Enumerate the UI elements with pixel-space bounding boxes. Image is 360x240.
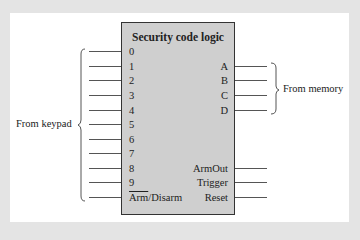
input-3: 3 [129, 90, 134, 102]
output-trigger: Trigger [197, 177, 228, 189]
input-5: 5 [129, 119, 134, 131]
input-4: 4 [129, 105, 134, 117]
block-title: Security code logic [122, 31, 234, 43]
input-1: 1 [129, 61, 134, 73]
input-7: 7 [129, 148, 134, 160]
output-reset: Reset [205, 192, 228, 204]
security-code-logic-block: Security code logic 0 1 2 3 4 5 6 7 8 9 … [121, 22, 235, 215]
arm-overbar-text: Arm [129, 192, 148, 203]
from-memory-label: From memory [283, 83, 343, 94]
input-6: 6 [129, 134, 134, 146]
input-8: 8 [129, 163, 134, 175]
disarm-text: /Disarm [148, 192, 182, 203]
output-armout: ArmOut [193, 163, 228, 175]
input-9: 9 [129, 177, 134, 189]
input-a: A [220, 61, 228, 73]
input-arm-disarm: Arm/Disarm [129, 192, 182, 204]
input-d: D [220, 105, 228, 117]
input-c: C [221, 90, 228, 102]
from-keypad-label: From keypad [16, 118, 72, 129]
input-b: B [221, 75, 228, 87]
input-0: 0 [129, 46, 134, 58]
input-2: 2 [129, 75, 134, 87]
